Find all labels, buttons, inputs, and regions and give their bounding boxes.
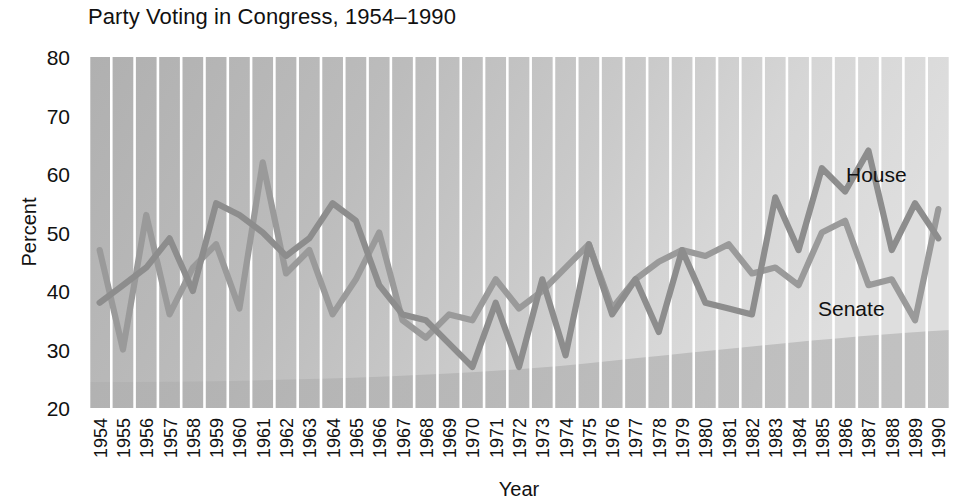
x-tick-label: 1966 <box>370 418 390 458</box>
x-tick-label: 1980 <box>696 418 716 458</box>
x-tick-label: 1984 <box>790 418 810 458</box>
party-voting-line-chart: 20304050607080 1954195519561957195819591… <box>0 0 974 503</box>
x-tick-label: 1962 <box>277 418 297 458</box>
x-tick-label: 1976 <box>603 418 623 458</box>
x-tick-label: 1958 <box>184 418 204 458</box>
x-tick-label: 1977 <box>626 418 646 458</box>
x-tick-label: 1973 <box>533 418 553 458</box>
house-series-label: House <box>846 163 907 186</box>
x-axis-title: Year <box>499 478 540 500</box>
senate-series-label: Senate <box>818 297 885 320</box>
y-tick-label: 20 <box>47 397 70 420</box>
y-tick-label: 80 <box>47 46 70 69</box>
x-tick-label: 1974 <box>557 418 577 458</box>
x-tick-label: 1963 <box>300 418 320 458</box>
x-tick-label: 1960 <box>230 418 250 458</box>
chart-page: Party Voting in Congress, 1954–1990 <box>0 0 974 503</box>
y-tick-label: 40 <box>47 280 70 303</box>
x-tick-label: 1956 <box>137 418 157 458</box>
y-tick-label: 30 <box>47 339 70 362</box>
x-tick-label: 1954 <box>91 418 111 458</box>
x-tick-label: 1979 <box>673 418 693 458</box>
y-tick-label: 50 <box>47 222 70 245</box>
x-tick-label: 1964 <box>324 418 344 458</box>
x-tick-label: 1981 <box>720 418 740 458</box>
x-tick-label: 1989 <box>906 418 926 458</box>
y-tick-label: 70 <box>47 105 70 128</box>
x-tick-label: 1986 <box>836 418 856 458</box>
x-tick-label: 1967 <box>394 418 414 458</box>
x-tick-label: 1975 <box>580 418 600 458</box>
x-tick-label: 1987 <box>859 418 879 458</box>
y-tick-label: 60 <box>47 163 70 186</box>
x-tick-label: 1988 <box>883 418 903 458</box>
x-tick-label: 1978 <box>650 418 670 458</box>
y-axis-tick-labels: 20304050607080 <box>47 46 70 420</box>
x-tick-label: 1971 <box>487 418 507 458</box>
x-tick-label: 1955 <box>114 418 134 458</box>
x-tick-label: 1985 <box>813 418 833 458</box>
x-tick-label: 1983 <box>766 418 786 458</box>
x-tick-label: 1990 <box>929 418 949 458</box>
x-tick-label: 1959 <box>207 418 227 458</box>
x-tick-label: 1965 <box>347 418 367 458</box>
y-axis-title: Percent <box>18 197 40 266</box>
x-tick-label: 1970 <box>463 418 483 458</box>
x-tick-label: 1961 <box>254 418 274 458</box>
x-tick-label: 1969 <box>440 418 460 458</box>
x-tick-label: 1968 <box>417 418 437 458</box>
x-axis-tick-labels: 1954195519561957195819591960196119621963… <box>91 418 950 458</box>
x-tick-label: 1957 <box>161 418 181 458</box>
x-tick-label: 1972 <box>510 418 530 458</box>
x-tick-label: 1982 <box>743 418 763 458</box>
